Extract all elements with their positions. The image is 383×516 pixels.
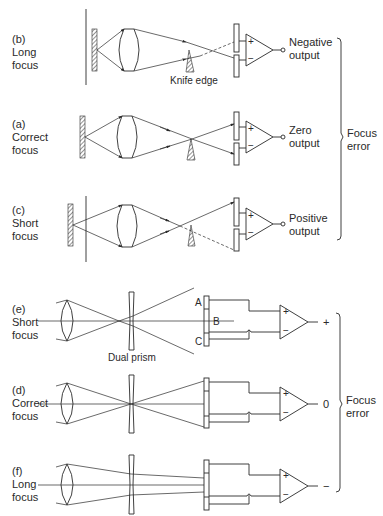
lens-icon <box>61 464 73 505</box>
knife-edge-icon <box>187 139 195 160</box>
panel-f-line2: focus <box>12 491 39 503</box>
focus-error-bracket-top: Focus error <box>337 38 377 240</box>
panel-b-long-focus: (b) Long focus Knife edge + − Negative o… <box>12 9 332 86</box>
panel-f-tag: (f) <box>12 465 22 477</box>
panel-e-output: + <box>323 316 329 328</box>
detector-label-c: C <box>195 336 202 347</box>
amp-plus: + <box>248 123 254 134</box>
panel-e-tag: (e) <box>12 303 25 315</box>
amp-plus: + <box>283 388 289 399</box>
mirror-icon <box>68 204 73 246</box>
bracket-top-label2: error <box>347 140 371 152</box>
bracket-top-label1: Focus <box>347 127 377 139</box>
panel-d-line2: focus <box>12 410 39 422</box>
panel-a-line1: Correct <box>12 131 48 143</box>
amp-minus: − <box>283 489 289 500</box>
lens-icon <box>61 383 73 424</box>
panel-b-line2: focus <box>12 59 39 71</box>
panel-b-output2: output <box>289 49 320 61</box>
panel-a-output2: output <box>289 137 320 149</box>
amp-plus: + <box>248 210 254 221</box>
panel-e-line2: focus <box>12 329 39 341</box>
amp-minus: − <box>248 53 254 64</box>
dual-prism-icon <box>129 455 134 514</box>
panel-c-line1: Short <box>12 217 38 229</box>
photodiode-top <box>234 112 239 140</box>
output-terminal-icon <box>281 222 285 226</box>
output-terminal-icon <box>281 48 285 52</box>
three-segment-detector <box>204 378 209 428</box>
lens-icon <box>117 205 137 247</box>
amp-minus: − <box>283 325 289 336</box>
detector-label-b: B <box>213 316 220 327</box>
amp-plus: + <box>283 470 289 481</box>
panel-a-tag: (a) <box>12 118 25 130</box>
detector-label-a: A <box>195 297 202 308</box>
photodiode-bottom <box>234 143 239 165</box>
bracket-icon <box>336 313 342 492</box>
knife-edge-icon <box>186 50 194 72</box>
panel-c-line2: focus <box>12 230 39 242</box>
panel-d-tag: (d) <box>12 384 25 396</box>
panel-a-line2: focus <box>12 144 39 156</box>
panel-c-tag: (c) <box>12 204 25 216</box>
amp-plus: + <box>248 36 254 47</box>
panel-c-short-focus: (c) Short focus + − Positive output <box>12 196 328 262</box>
panel-f-output: − <box>323 480 329 492</box>
panel-b-line1: Long <box>12 46 36 58</box>
photodiode-top <box>234 198 239 226</box>
photodiode-bottom <box>234 55 239 77</box>
panel-e-line1: Short <box>12 316 38 328</box>
knife-edge-label: Knife edge <box>170 75 218 86</box>
lens-icon <box>119 29 139 71</box>
panel-d-line1: Correct <box>12 397 48 409</box>
panel-f-long-focus: (f) Long focus + − − <box>12 455 329 514</box>
bracket-bottom-label2: error <box>346 407 370 419</box>
panel-a-output1: Zero <box>289 124 312 136</box>
panel-a-correct-focus: (a) Correct focus + − Zero output <box>12 112 320 165</box>
panel-d-correct-focus: (d) Correct focus + − 0 <box>12 375 329 433</box>
bracket-bottom-label1: Focus <box>346 394 376 406</box>
panel-e-short-focus: (e) Short focus Dual prism A B C + − + <box>12 288 329 363</box>
lens-icon <box>61 300 73 341</box>
knife-edge-icon <box>188 225 195 246</box>
panel-b-tag: (b) <box>12 33 25 45</box>
panel-d-output: 0 <box>323 398 329 410</box>
output-terminal-icon <box>281 135 285 139</box>
lens-icon <box>117 116 137 158</box>
amp-plus: + <box>283 306 289 317</box>
photodiode-top <box>234 24 239 52</box>
dual-prism-label: Dual prism <box>108 352 156 363</box>
panel-c-output2: output <box>289 225 320 237</box>
panel-f-line1: Long <box>12 478 36 490</box>
panel-b-output1: Negative <box>289 36 332 48</box>
mirror-icon <box>80 116 85 158</box>
focus-error-diagram: (b) Long focus Knife edge + − Negative o… <box>0 0 383 516</box>
three-segment-detector <box>204 460 209 510</box>
bracket-icon <box>337 38 343 240</box>
amp-minus: − <box>283 407 289 418</box>
focus-error-bracket-bottom: Focus error <box>336 313 376 492</box>
panel-c-output1: Positive <box>289 212 328 224</box>
mirror-icon <box>92 29 97 71</box>
amp-minus: − <box>248 140 254 151</box>
photodiode-bottom <box>234 229 239 251</box>
amp-minus: − <box>248 227 254 238</box>
